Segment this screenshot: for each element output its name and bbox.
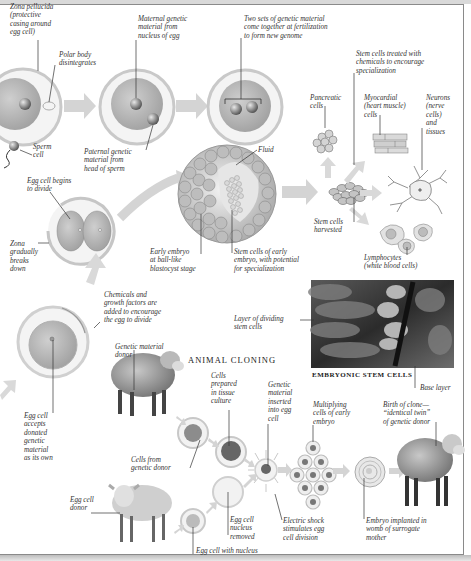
label-polar-body: Polar body disintegrates	[59, 51, 96, 68]
label-chemicals: Chemicals and growth factors are added t…	[104, 291, 161, 325]
label-early-embryo: Early embryo at ball-like blastocyst sta…	[150, 248, 196, 273]
arrow-2	[176, 93, 208, 119]
micrograph-photo	[308, 280, 454, 368]
lymphocytes	[380, 224, 432, 254]
label-stem-treated: Stem cells treated with chemicals to enc…	[356, 50, 424, 75]
label-zona-pellucida: Zona pellucida (protective casing around…	[10, 3, 53, 37]
arrow-downright	[349, 207, 369, 225]
label-sperm-cell: Sperm cell	[33, 143, 51, 160]
label-neurons: Neurons (nerve cells) and tissues	[426, 94, 450, 136]
label-nucleus-removed: Egg cell nucleus removed	[230, 516, 254, 541]
label-paternal-genetic: Paternal genetic material from head of s…	[84, 148, 132, 173]
bottom-border	[0, 555, 471, 561]
section-title-animal-cloning: ANIMAL CLONING	[188, 355, 276, 365]
label-zona-breaks: Zona gradually breaks down	[10, 240, 38, 274]
label-egg-donor: Egg cell donor	[70, 496, 94, 513]
label-birth-clone: Birth of clone— “identical twin” of gene…	[383, 401, 430, 426]
egg-donor-sheep	[109, 485, 172, 542]
multiplying-embryo-cells	[290, 441, 336, 509]
arrow-left-up	[0, 380, 16, 400]
label-egg-accepts: Egg cell accepts donated genetic materia…	[24, 412, 53, 462]
label-multiplying: Multiplying cells of early embryo	[313, 401, 350, 426]
label-layer-dividing: Layer of dividing stem cells	[234, 315, 284, 332]
label-lymphocytes: Lymphocytes (white blood cells)	[364, 254, 418, 271]
label-embryo-implanted: Embryo implanted in womb of surrogate mo…	[366, 517, 427, 542]
label-genetic-donor: Genetic material donor	[115, 343, 164, 360]
arrow-1	[64, 93, 96, 119]
egg-cell-fertilized	[208, 70, 282, 144]
label-fluid: Fluid	[258, 146, 274, 154]
label-cells-prepared: Cells prepared in tissue culture	[211, 372, 237, 406]
label-two-sets: Two sets of genetic material come togeth…	[244, 15, 328, 40]
label-stem-harvested: Stem cells harvested	[314, 218, 343, 235]
genetic-donor-sheep	[111, 351, 184, 416]
arrow-up	[320, 157, 336, 178]
clone-sheep	[397, 434, 465, 506]
label-base-layer: Base layer	[420, 384, 451, 392]
caption-embryonic-stem-cells: EMBRYONIC STEM CELLS	[312, 371, 412, 379]
label-cells-from-donor: Cells from genetic donor	[131, 456, 171, 473]
two-cell-embryo	[48, 198, 114, 264]
arrow-4	[282, 179, 318, 205]
label-egg-cell-divide: Egg cell begins to divide	[27, 177, 71, 194]
myocardial-cells	[373, 134, 408, 153]
label-pancreatic: Pancreatic cells	[310, 94, 341, 111]
tissue-culture-cell	[216, 437, 246, 467]
stem-cell-cloning-illustration	[0, 0, 471, 561]
egg-cell-2	[100, 70, 174, 144]
pancreatic-cells	[313, 130, 337, 153]
label-electric-shock: Electric shock stimulates egg cell divis…	[283, 517, 324, 542]
label-genetic-inserted: Genetic material inserted into egg cell	[268, 381, 292, 423]
blastocyst	[178, 145, 276, 243]
label-myocardial: Myocardial (heart muscle) cells	[364, 94, 406, 119]
neuron	[388, 166, 447, 214]
sperm	[4, 141, 19, 168]
arrow-upright	[344, 161, 365, 184]
label-maternal-genetic: Maternal genetic material from nucleus o…	[138, 15, 187, 40]
implanted-embryo	[355, 457, 385, 487]
label-stem-cells-early: Stem cells of early embryo, with potenti…	[234, 248, 299, 273]
egg-cell-1	[0, 69, 61, 145]
arrow-3	[120, 178, 178, 218]
